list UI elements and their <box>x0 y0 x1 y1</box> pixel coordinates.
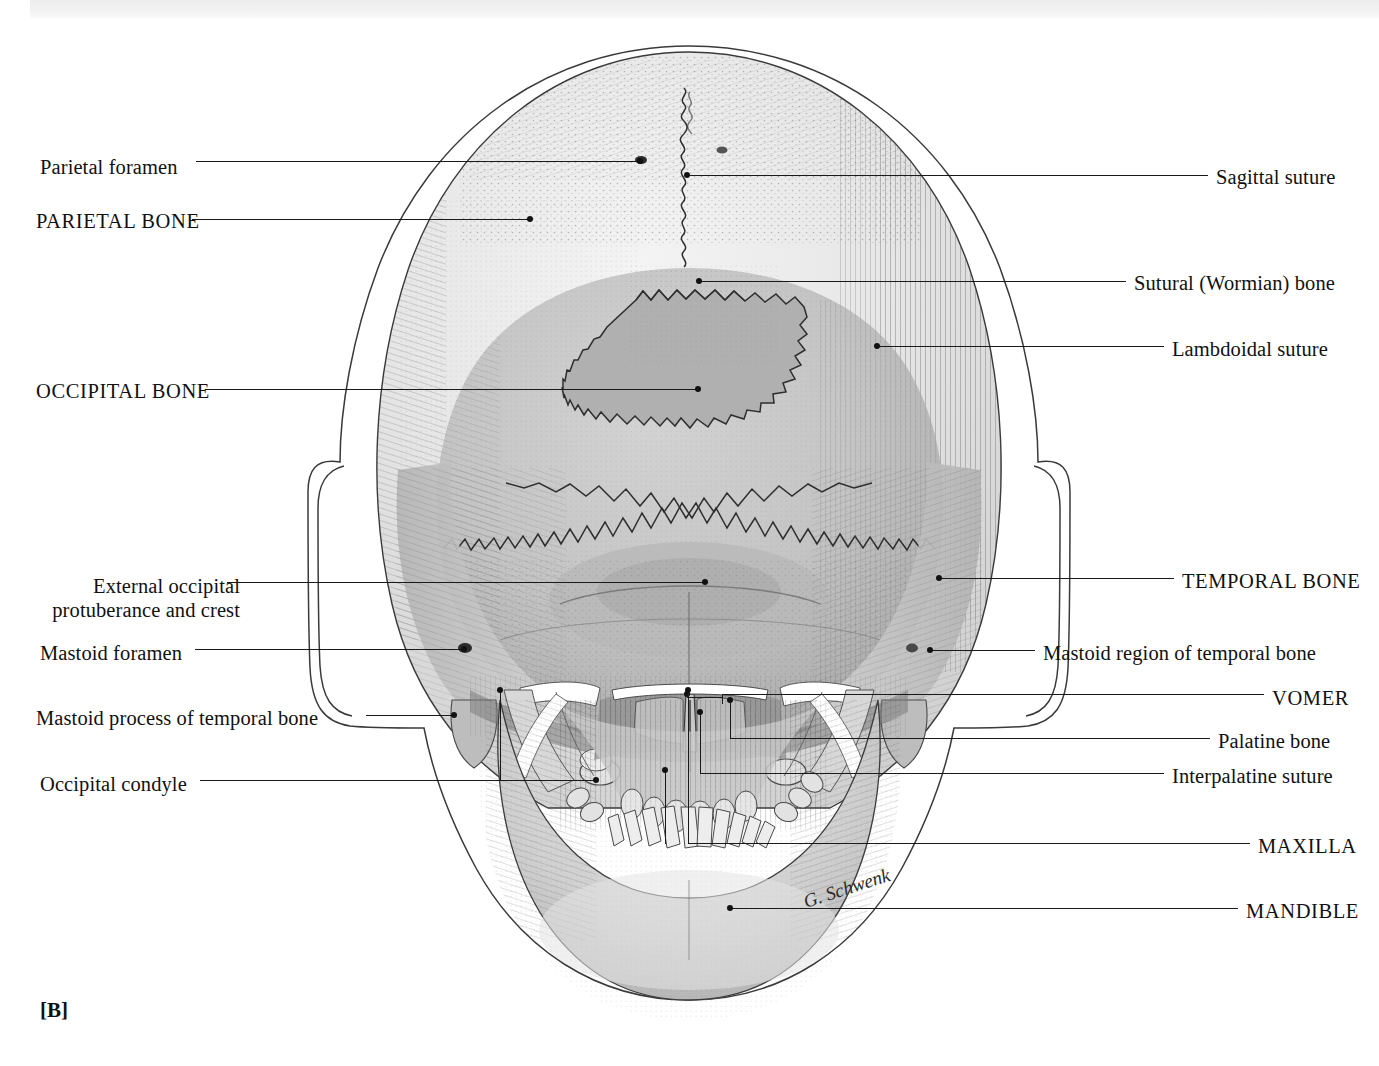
leader-maxilla-vertical <box>688 690 689 844</box>
leader-mastoid-region <box>932 650 1035 651</box>
label-sagittal-suture: Sagittal suture <box>1216 165 1335 190</box>
leader-parietal-foramen <box>196 161 642 162</box>
leader-lambdoidal-suture <box>879 346 1164 347</box>
leader-occipital-condyle-vertical <box>500 690 501 781</box>
leader-palatine-bone <box>730 738 1210 739</box>
leader-parietal-bone <box>192 219 532 220</box>
leader-temporal-bone <box>941 578 1174 579</box>
leader-dot-lambdoidal-suture <box>874 343 880 349</box>
label-palatine-bone: Palatine bone <box>1218 729 1330 754</box>
leader-dot-mastoid-foramen <box>461 646 467 652</box>
leader-mastoid-process <box>366 715 456 716</box>
leader-dot-occipital-bone <box>695 386 701 392</box>
label-mastoid-process-of-temporal-bone: Mastoid process of temporal bone <box>36 706 318 731</box>
leader-dot-sutural-wormian-bone <box>696 278 702 284</box>
label-external-occipital-line2: protuberance and crest <box>52 599 240 621</box>
leader-vomer-vertical <box>722 694 723 704</box>
leader-occipital-condyle <box>200 780 598 781</box>
label-sutural-wormian-bone: Sutural (Wormian) bone <box>1134 271 1335 296</box>
leader-dot-occipital-condyle <box>593 777 599 783</box>
leader-mandible <box>732 908 1238 909</box>
leader-dot-maxilla <box>685 687 691 693</box>
label-mastoid-foramen: Mastoid foramen <box>40 641 182 666</box>
leader-dot-occipital-condyle-upper <box>497 687 503 693</box>
leader-maxilla-teeth-vertical <box>665 770 666 844</box>
leader-dot-temporal-bone <box>936 575 942 581</box>
panel-label: [B] <box>40 998 68 1023</box>
leader-interpalatine-vertical <box>700 712 701 774</box>
label-external-occipital-protuberance: External occipital protuberance and cres… <box>40 574 240 622</box>
label-mastoid-region-of-temporal-bone: Mastoid region of temporal bone <box>1043 641 1316 666</box>
leader-dot-maxilla-teeth <box>662 767 668 773</box>
leader-dot-mastoid-region <box>927 647 933 653</box>
leader-dot-parietal-bone <box>527 216 533 222</box>
leader-dot-external-occipital-protuberance <box>702 579 708 585</box>
leader-sutural-wormian-bone <box>701 281 1126 282</box>
leader-dot-interpalatine-suture <box>697 709 703 715</box>
skull-posterior-illustration: G. Schwenk <box>0 0 1379 1066</box>
label-parietal-foramen: Parietal foramen <box>40 155 178 180</box>
label-occipital-bone: OCCIPITAL BONE <box>36 379 210 404</box>
figure-page: G. Schwenk <box>0 0 1379 1066</box>
leader-dot-parietal-foramen <box>637 158 643 164</box>
leader-interpalatine-suture <box>700 773 1164 774</box>
leader-dot-mandible <box>727 905 733 911</box>
leader-dot-palatine-bone <box>727 697 733 703</box>
leader-maxilla <box>688 843 1250 844</box>
leader-vomer-stub <box>687 697 723 698</box>
leader-dot-sagittal-suture <box>684 172 690 178</box>
leader-occipital-bone <box>205 389 700 390</box>
leader-vomer <box>722 694 1264 695</box>
label-vomer: VOMER <box>1272 686 1349 711</box>
leader-sagittal-suture <box>688 175 1208 176</box>
label-mandible: MANDIBLE <box>1246 899 1359 924</box>
label-interpalatine-suture: Interpalatine suture <box>1172 764 1333 789</box>
leader-mastoid-foramen <box>195 649 466 650</box>
leader-dot-mastoid-process <box>451 712 457 718</box>
label-external-occipital-line1: External occipital <box>93 575 240 597</box>
label-lambdoidal-suture: Lambdoidal suture <box>1172 337 1328 362</box>
label-temporal-bone: TEMPORAL BONE <box>1182 569 1360 594</box>
label-parietal-bone: PARIETAL BONE <box>36 209 200 234</box>
label-occipital-condyle: Occipital condyle <box>40 772 187 797</box>
leader-external-occipital-protuberance <box>227 582 707 583</box>
leader-palatine-vertical <box>730 700 731 739</box>
label-maxilla: MAXILLA <box>1258 834 1357 859</box>
